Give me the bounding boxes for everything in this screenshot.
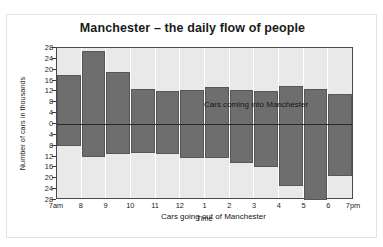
bars-layer: [57, 48, 352, 198]
x-tick-label: 6: [326, 201, 330, 210]
bar-cars-out: [131, 124, 155, 153]
bar-group: [57, 48, 82, 198]
x-tick-label: 7am: [49, 201, 63, 210]
bar-cars-out: [106, 124, 130, 154]
bar-cars-in: [156, 91, 180, 124]
y-axis-title: Number of cars in thousands: [17, 47, 29, 199]
chart-card: Manchester – the daily flow of people Nu…: [6, 14, 377, 238]
bar-cars-out: [279, 124, 303, 186]
x-tick-label: 12: [176, 201, 184, 210]
x-tick-label: 5: [301, 201, 305, 210]
x-tick-label: 9: [103, 201, 107, 210]
bar-cars-out: [304, 124, 328, 200]
bar-cars-out: [230, 124, 254, 163]
bar-group: [328, 48, 352, 198]
bar-group: [106, 48, 131, 198]
bar-group: [131, 48, 156, 198]
bar-cars-out: [156, 124, 180, 154]
bar-cars-in: [328, 94, 352, 124]
bar-group: [304, 48, 329, 198]
annotation-cars-in: Cars coming into Manchester: [204, 100, 308, 109]
bar-cars-in: [82, 51, 106, 124]
bar-group: [230, 48, 255, 198]
bar-cars-in: [180, 90, 204, 124]
x-tick-label: 1: [202, 201, 206, 210]
x-axis-title: Time: [56, 214, 353, 223]
x-axis-tick-labels: 7am891011121234567pm: [56, 201, 353, 213]
bar-cars-out: [57, 124, 81, 146]
y-tick-mark: [52, 199, 56, 200]
bar-cars-in: [131, 89, 155, 124]
bar-cars-out: [205, 124, 229, 158]
bar-cars-out: [328, 124, 352, 176]
bar-group: [205, 48, 230, 198]
bar-cars-out: [254, 124, 278, 167]
bar-group: [82, 48, 107, 198]
x-tick-label: 11: [151, 201, 159, 210]
screenshot-root: Manchester – the daily flow of people Nu…: [0, 0, 383, 247]
bar-cars-in: [106, 72, 130, 124]
chart-title: Manchester – the daily flow of people: [7, 21, 378, 35]
bar-cars-out: [82, 124, 106, 157]
x-tick-label: 4: [277, 201, 281, 210]
bar-group: [180, 48, 205, 198]
x-tick-label: 7pm: [346, 201, 360, 210]
x-tick-label: 3: [252, 201, 256, 210]
bar-group: [279, 48, 304, 198]
x-tick-label: 10: [126, 201, 134, 210]
bar-group: [156, 48, 181, 198]
y-axis-title-label: Number of cars in thousands: [19, 76, 28, 169]
plot-area: Cars coming into Manchester Cars going o…: [56, 47, 353, 199]
x-tick-label: 2: [227, 201, 231, 210]
bar-group: [254, 48, 279, 198]
bar-cars-in: [57, 75, 81, 124]
bar-cars-out: [180, 124, 204, 158]
x-tick-label: 8: [79, 201, 83, 210]
